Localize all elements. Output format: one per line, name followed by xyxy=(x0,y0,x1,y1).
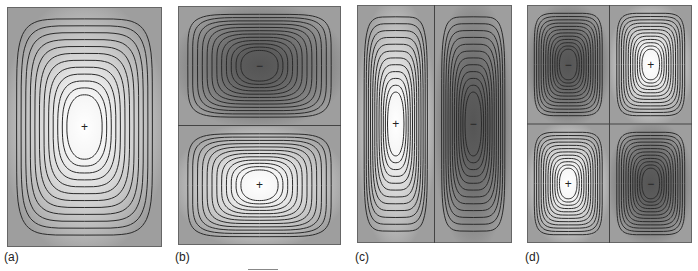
svg-text:+: + xyxy=(647,58,654,72)
panel-b: −+ xyxy=(178,6,341,245)
panel-a-label: (a) xyxy=(4,250,19,264)
contour-plot-c: +− xyxy=(357,5,512,243)
contour-plot-a: + xyxy=(7,7,162,247)
panel-d: −++− xyxy=(527,5,692,243)
panel-a: + xyxy=(7,7,162,247)
panel-d-label: (d) xyxy=(525,250,540,264)
svg-text:−: − xyxy=(256,59,263,73)
svg-text:+: + xyxy=(392,117,399,131)
svg-text:+: + xyxy=(256,178,263,192)
panel-b-label: (b) xyxy=(175,250,190,264)
scale-bar xyxy=(248,269,278,270)
panel-c: +− xyxy=(357,5,512,243)
contour-plot-d: −++− xyxy=(527,5,692,243)
svg-text:−: − xyxy=(565,58,572,72)
svg-text:−: − xyxy=(470,117,477,131)
svg-text:+: + xyxy=(81,120,88,134)
contour-plot-b: −+ xyxy=(178,6,341,245)
svg-text:+: + xyxy=(565,177,572,191)
panel-c-label: (c) xyxy=(355,250,369,264)
svg-text:−: − xyxy=(647,177,654,191)
